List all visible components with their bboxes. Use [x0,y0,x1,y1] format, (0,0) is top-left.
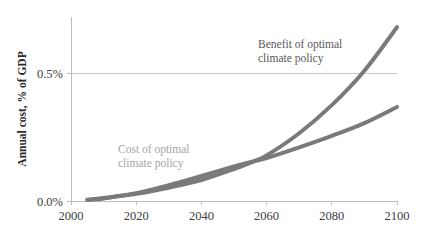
x-tick-label-2060: 2060 [254,209,279,223]
benefit-label: Benefit of optimalclimate policy [258,38,342,65]
x-tick-label-2000: 2000 [59,209,84,223]
axis-ticks [67,73,397,205]
benefit-label-line-1: Benefit of optimal [258,38,342,51]
cost-label-line-2: climate policy [118,157,184,170]
x-axis-tick-labels: 200020202040206020802100 [59,209,410,223]
y-tick-label-0.5%: 0.5% [37,67,63,81]
x-tick-label-2080: 2080 [319,209,344,223]
annual-cost-line-chart: 200020202040206020802100 0.0%0.5% Benefi… [0,0,425,236]
y-axis-title: Annual cost, % of GDP [16,51,28,166]
cost-label-line-1: Cost of optimal [118,143,190,156]
x-tick-label-2040: 2040 [189,209,214,223]
y-tick-label-0.0%: 0.0% [37,195,63,209]
x-tick-label-2100: 2100 [385,209,410,223]
benefit-label-line-2: climate policy [258,52,324,65]
series-line-benefit [87,27,397,200]
x-tick-label-2020: 2020 [124,209,149,223]
series-annotations: Benefit of optimalclimate policyCost of … [118,38,342,170]
y-axis-tick-labels: 0.0%0.5% [37,67,63,209]
data-series [87,27,397,200]
cost-label: Cost of optimalclimate policy [118,143,190,170]
axes [71,17,397,201]
chart-container: 200020202040206020802100 0.0%0.5% Benefi… [0,0,425,236]
